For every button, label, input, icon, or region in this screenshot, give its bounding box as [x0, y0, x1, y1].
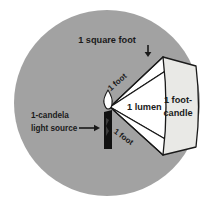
footcandle-label-line1: 1 foot- — [164, 95, 192, 105]
square-foot-label: 1 square foot — [78, 35, 136, 45]
light-source-label-line1: 1-candela — [31, 111, 69, 120]
light-source-label-line2: light source — [31, 124, 78, 133]
footcandle-panel — [163, 57, 199, 155]
diagram-canvas: 1 square foot 1-candela light source 1 l… — [0, 0, 212, 217]
illuminance-diagram: 1 square foot 1-candela light source 1 l… — [0, 0, 212, 217]
footcandle-label-line2: candle — [163, 108, 192, 118]
lumen-label: 1 lumen — [127, 102, 162, 112]
